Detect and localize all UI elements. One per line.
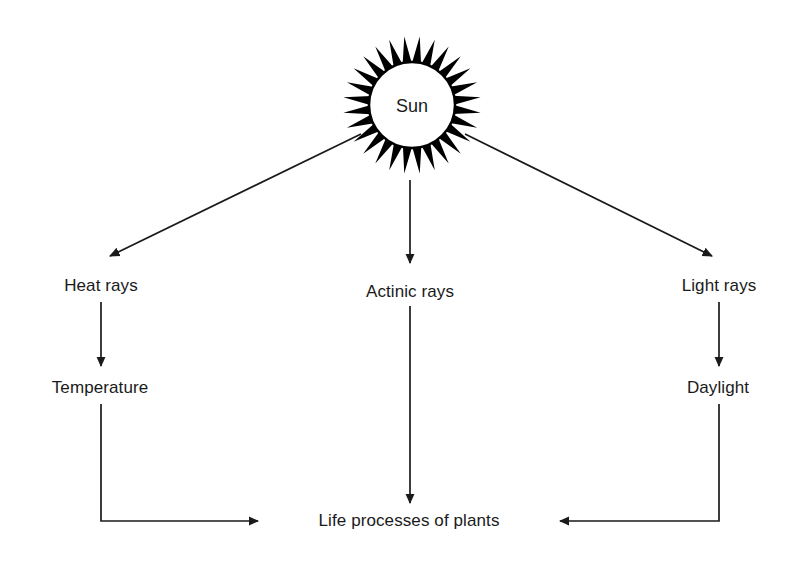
edge-sun-to-light-rays bbox=[465, 134, 712, 256]
node-label-life-processes: Life processes of plants bbox=[319, 511, 500, 531]
node-label-temperature: Temperature bbox=[52, 378, 149, 398]
node-label-light-rays: Light rays bbox=[682, 276, 757, 296]
node-label-sun: Sun bbox=[396, 96, 428, 117]
node-label-heat-rays: Heat rays bbox=[64, 276, 138, 296]
edge-sun-to-heat-rays bbox=[110, 134, 361, 256]
diagram-canvas: Sun Heat rays Actinic rays Light rays Te… bbox=[0, 0, 798, 563]
edge-daylight-to-life-processes bbox=[560, 404, 719, 521]
edge-temperature-to-life-processes bbox=[101, 404, 258, 521]
node-label-actinic-rays: Actinic rays bbox=[366, 282, 454, 302]
node-label-daylight: Daylight bbox=[687, 378, 749, 398]
